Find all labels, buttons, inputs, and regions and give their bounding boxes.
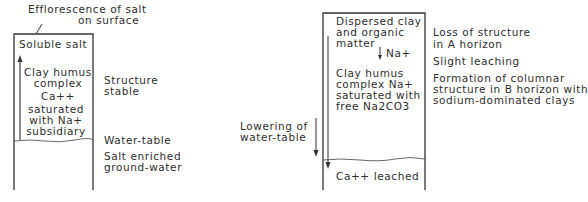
- loss-structure-line2: in A horizon: [433, 39, 503, 50]
- left-water-table-line: [14, 139, 93, 142]
- complex-label: complex: [22, 78, 94, 89]
- water-table-label: Water-table: [104, 135, 171, 146]
- na-arrow-head: [378, 55, 382, 60]
- columnar-structure-line3: sodium-dominated clays: [433, 95, 575, 106]
- subsidiary-label: subsidiary: [18, 126, 94, 137]
- structure-stable-line2: stable: [104, 86, 140, 97]
- upward-arrow-head: [18, 55, 23, 62]
- ca-leached-label: Ca++ leached: [336, 171, 419, 182]
- lowering-arrow-head: [314, 150, 319, 157]
- right-water-table-line: [323, 158, 425, 161]
- clay-humus-right-line4: free Na2CO3: [336, 101, 410, 112]
- dispersed-clay-line3: matter: [336, 38, 375, 49]
- efflorescence-caption-line2: on surface: [78, 15, 139, 26]
- inner-downward-arrow-head: [326, 162, 331, 169]
- efflorescence-pointer: [36, 24, 42, 34]
- na-plus-label: Na+: [386, 48, 411, 59]
- soluble-salt-label: Soluble salt: [19, 39, 87, 50]
- lowering-water-table-line2: water-table: [240, 132, 306, 143]
- loss-structure-line1: Loss of structure: [433, 27, 531, 38]
- slight-leaching-label: Slight leaching: [433, 56, 520, 67]
- ca-label: Ca++: [22, 91, 94, 102]
- salt-enriched-line2: ground-water: [104, 162, 182, 173]
